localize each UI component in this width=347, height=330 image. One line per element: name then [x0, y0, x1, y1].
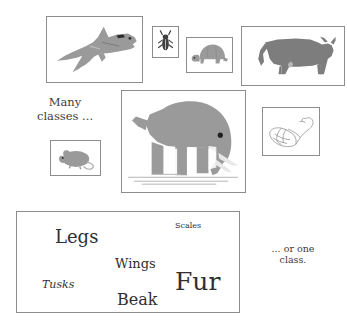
feature-word-tusks: Tusks	[42, 279, 74, 290]
feature-word-wings: Wings	[115, 257, 156, 270]
animal-box-beetle[interactable]	[152, 26, 179, 58]
animal-box-turtle[interactable]	[186, 37, 233, 73]
shark-icon	[47, 17, 142, 82]
cow-icon	[242, 27, 344, 85]
swan-icon	[263, 108, 319, 155]
feature-word-scales: Scales	[175, 222, 201, 230]
beetle-icon	[153, 27, 178, 57]
feature-words-box[interactable]: Legs Scales Wings Fur Tusks Beak	[16, 211, 240, 313]
feature-word-legs: Legs	[55, 228, 98, 246]
animal-box-shark[interactable]	[46, 16, 143, 83]
caption-many-classes: Many classes ...	[22, 96, 108, 123]
feature-word-beak: Beak	[117, 292, 157, 308]
mouse-icon	[51, 141, 100, 175]
animal-box-elephant[interactable]	[121, 90, 246, 193]
animal-box-swan[interactable]	[262, 107, 320, 156]
animal-box-mouse[interactable]	[50, 140, 101, 176]
animal-box-cow[interactable]	[241, 26, 345, 86]
figure-canvas: Many classes ... Legs Scales Wings Fur T…	[0, 0, 347, 330]
turtle-icon	[187, 38, 232, 72]
elephant-icon	[122, 91, 245, 192]
feature-word-fur: Fur	[175, 269, 220, 294]
caption-one-class: ... or one class.	[245, 243, 341, 265]
